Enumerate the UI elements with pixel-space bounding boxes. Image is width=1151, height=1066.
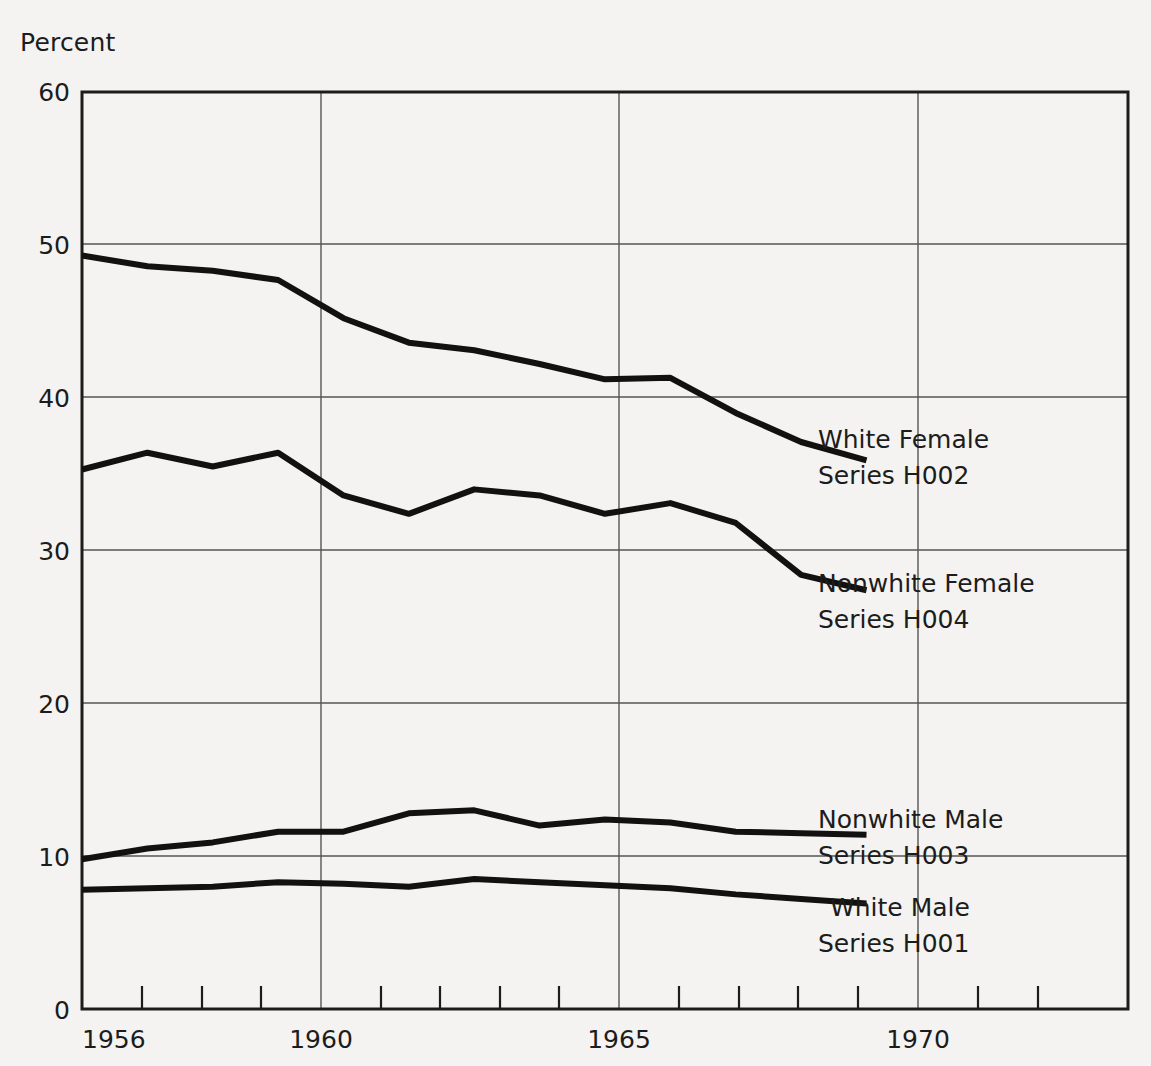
series-line-white-male [82, 879, 867, 903]
label-white-male-line2: Series H001 [818, 929, 969, 958]
label-white-male-line1: White Male [830, 893, 970, 922]
label-white-female-line2: Series H002 [818, 461, 969, 490]
label-nonwhite-female-line1: Nonwhite Female [818, 569, 1035, 598]
x-tick-label-1956: 1956 [82, 1025, 146, 1054]
x-axis-tickmarks [142, 986, 1038, 1009]
x-tick-label-1960: 1960 [289, 1025, 353, 1054]
label-nonwhite-male-line1: Nonwhite Male [818, 805, 1003, 834]
data-series-group [82, 256, 867, 904]
series-line-nonwhite-female [82, 453, 867, 591]
horizontal-gridlines [82, 244, 1128, 856]
label-nonwhite-female-line2: Series H004 [818, 605, 969, 634]
y-tick-label-0: 0 [54, 996, 70, 1025]
series-line-white-female [82, 256, 867, 461]
series-line-nonwhite-male [82, 810, 867, 859]
x-tick-label-1965: 1965 [587, 1025, 651, 1054]
line-chart-plot: 60 50 40 30 20 10 0 1956 1960 1965 1970 … [0, 0, 1151, 1066]
label-white-female-line1: White Female [818, 425, 989, 454]
y-tick-label-50: 50 [38, 231, 70, 260]
y-tick-label-20: 20 [38, 690, 70, 719]
y-tick-label-40: 40 [38, 384, 70, 413]
chart-container: Percent [0, 0, 1151, 1066]
x-tick-label-1970: 1970 [886, 1025, 950, 1054]
series-annotations: White Female Series H002 Nonwhite Female… [818, 425, 1035, 958]
label-nonwhite-male-line2: Series H003 [818, 841, 969, 870]
y-tick-label-60: 60 [38, 78, 70, 107]
y-tick-label-30: 30 [38, 537, 70, 566]
y-tick-label-10: 10 [38, 843, 70, 872]
